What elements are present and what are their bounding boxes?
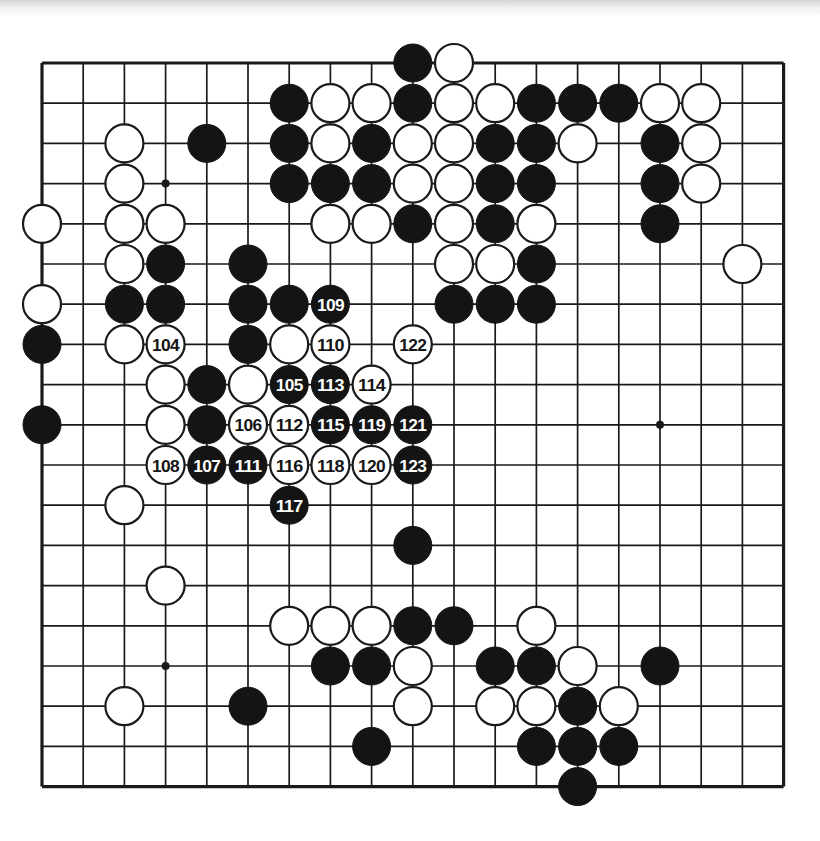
white-stone[interactable] [311,205,349,243]
white-stone[interactable] [147,406,185,444]
white-stone[interactable] [600,687,638,725]
black-stone[interactable] [641,165,679,203]
white-stone[interactable] [270,607,308,645]
black-stone[interactable] [476,165,514,203]
black-stone[interactable] [641,205,679,243]
white-stone[interactable] [517,687,555,725]
numbered-move-stone[interactable]: 123 [394,446,432,484]
black-stone[interactable] [229,687,267,725]
numbered-move-stone[interactable]: 118 [311,446,349,484]
numbered-move-stone[interactable]: 122 [394,325,432,363]
numbered-move-stone[interactable]: 108 [147,446,185,484]
white-stone[interactable] [353,607,391,645]
numbered-move-stone[interactable]: 112 [270,406,308,444]
white-stone[interactable] [682,165,720,203]
white-stone[interactable] [517,205,555,243]
black-stone[interactable] [270,165,308,203]
black-stone[interactable] [641,647,679,685]
black-stone[interactable] [394,84,432,122]
black-stone[interactable] [270,285,308,323]
white-stone[interactable] [105,325,143,363]
white-stone[interactable] [476,84,514,122]
black-stone[interactable] [147,245,185,283]
black-stone[interactable] [270,84,308,122]
black-stone[interactable] [394,205,432,243]
white-stone[interactable] [105,687,143,725]
white-stone[interactable] [353,84,391,122]
white-stone[interactable] [353,205,391,243]
black-stone[interactable] [105,285,143,323]
numbered-move-stone[interactable]: 115 [311,406,349,444]
white-stone[interactable] [435,205,473,243]
black-stone[interactable] [353,647,391,685]
black-stone[interactable] [353,727,391,765]
black-stone[interactable] [517,727,555,765]
black-stone[interactable] [476,124,514,162]
white-stone[interactable] [394,647,432,685]
black-stone[interactable] [394,607,432,645]
black-stone[interactable] [476,285,514,323]
white-stone[interactable] [682,84,720,122]
black-stone[interactable] [600,84,638,122]
black-stone[interactable] [394,44,432,82]
numbered-move-stone[interactable]: 110 [311,325,349,363]
black-stone[interactable] [435,285,473,323]
white-stone[interactable] [229,366,267,404]
black-stone[interactable] [23,406,61,444]
white-stone[interactable] [105,205,143,243]
black-stone[interactable] [559,84,597,122]
black-stone[interactable] [229,285,267,323]
white-stone[interactable] [394,124,432,162]
white-stone[interactable] [311,124,349,162]
white-stone[interactable] [270,325,308,363]
white-stone[interactable] [147,366,185,404]
black-stone[interactable] [517,165,555,203]
numbered-move-stone[interactable]: 116 [270,446,308,484]
goban-svg[interactable]: 1041051061071081091101111121131141151161… [0,0,820,841]
numbered-move-stone[interactable]: 104 [147,325,185,363]
white-stone[interactable] [435,44,473,82]
numbered-move-stone[interactable]: 121 [394,406,432,444]
numbered-move-stone[interactable]: 119 [353,406,391,444]
white-stone[interactable] [476,687,514,725]
black-stone[interactable] [353,124,391,162]
black-stone[interactable] [476,205,514,243]
black-stone[interactable] [188,366,226,404]
black-stone[interactable] [311,647,349,685]
white-stone[interactable] [517,607,555,645]
white-stone[interactable] [641,84,679,122]
black-stone[interactable] [23,325,61,363]
black-stone[interactable] [517,245,555,283]
numbered-move-stone[interactable]: 117 [270,486,308,524]
black-stone[interactable] [229,325,267,363]
black-stone[interactable] [270,124,308,162]
white-stone[interactable] [105,486,143,524]
white-stone[interactable] [435,84,473,122]
white-stone[interactable] [105,245,143,283]
black-stone[interactable] [353,165,391,203]
black-stone[interactable] [559,687,597,725]
black-stone[interactable] [229,245,267,283]
numbered-move-stone[interactable]: 111 [229,446,267,484]
black-stone[interactable] [641,124,679,162]
numbered-move-stone[interactable]: 105 [270,366,308,404]
white-stone[interactable] [559,124,597,162]
white-stone[interactable] [435,165,473,203]
white-stone[interactable] [147,567,185,605]
white-stone[interactable] [559,647,597,685]
white-stone[interactable] [105,165,143,203]
black-stone[interactable] [188,406,226,444]
black-stone[interactable] [517,84,555,122]
black-stone[interactable] [559,768,597,806]
numbered-move-stone[interactable]: 107 [188,446,226,484]
black-stone[interactable] [188,124,226,162]
white-stone[interactable] [394,165,432,203]
white-stone[interactable] [23,205,61,243]
numbered-move-stone[interactable]: 113 [311,366,349,404]
white-stone[interactable] [476,245,514,283]
black-stone[interactable] [517,285,555,323]
white-stone[interactable] [105,124,143,162]
white-stone[interactable] [311,84,349,122]
black-stone[interactable] [517,647,555,685]
black-stone[interactable] [311,165,349,203]
